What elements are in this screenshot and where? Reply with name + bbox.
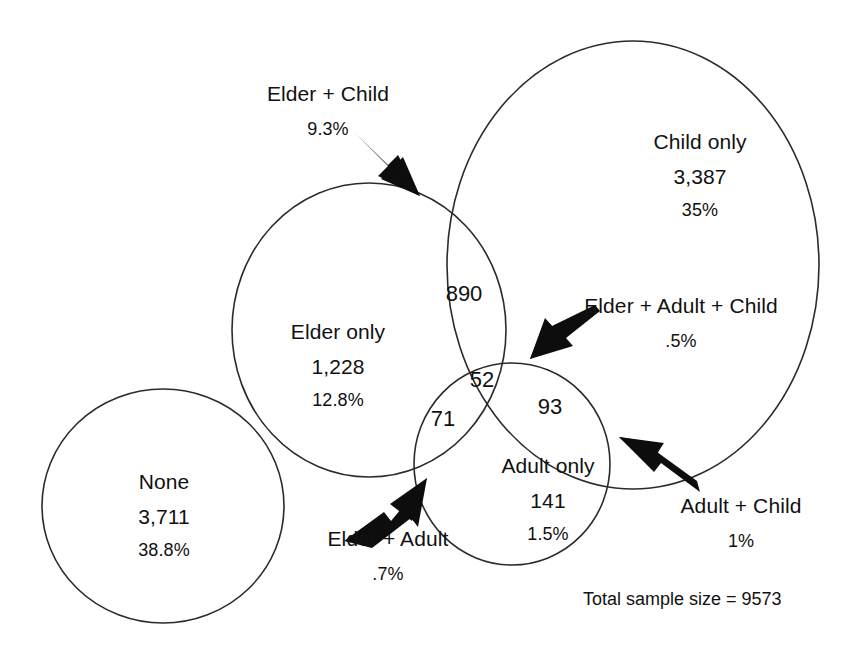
label-adult-child: Adult + Child 1% bbox=[636, 492, 846, 554]
label-elder-only-text: Elder only bbox=[248, 318, 428, 347]
arrow-adult-child bbox=[619, 437, 700, 492]
label-child-only: Child only 3,387 35% bbox=[600, 128, 800, 223]
label-child-only-percent: 35% bbox=[600, 198, 800, 223]
label-elder-adult: Elder + Adult .7% bbox=[283, 525, 493, 587]
label-elder-adult-child: Elder + Adult + Child .5% bbox=[540, 292, 822, 354]
label-adult-child-text: Adult + Child bbox=[636, 492, 846, 521]
label-elder-only: Elder only 1,228 12.8% bbox=[248, 318, 428, 413]
label-none-percent: 38.8% bbox=[84, 538, 244, 563]
arrow-elder-child bbox=[355, 133, 420, 196]
label-none-count: 3,711 bbox=[84, 503, 244, 532]
count-adult-child: 93 bbox=[527, 394, 573, 420]
label-elder-adult-child-percent: .5% bbox=[540, 329, 822, 354]
label-elder-adult-child-text: Elder + Adult + Child bbox=[540, 292, 822, 321]
venn-diagram-figure: Elder + Child 9.3% Child only 3,387 35% … bbox=[0, 0, 849, 657]
count-elder-adult: 71 bbox=[420, 406, 466, 432]
circle-child bbox=[447, 41, 819, 489]
label-elder-only-percent: 12.8% bbox=[248, 388, 428, 413]
label-child-only-text: Child only bbox=[600, 128, 800, 157]
label-elder-child-text: Elder + Child bbox=[198, 80, 458, 109]
label-elder-adult-text: Elder + Adult bbox=[283, 525, 493, 554]
label-child-only-count: 3,387 bbox=[600, 163, 800, 192]
label-none-text: None bbox=[84, 468, 244, 497]
label-elder-child-percent: 9.3% bbox=[198, 117, 458, 142]
total-sample-size: Total sample size = 9573 bbox=[583, 589, 782, 610]
label-elder-adult-percent: .7% bbox=[283, 562, 493, 587]
label-elder-child: Elder + Child 9.3% bbox=[198, 80, 458, 142]
count-elder-adult-child: 52 bbox=[459, 367, 505, 393]
label-adult-child-percent: 1% bbox=[636, 529, 846, 554]
label-adult-only-count: 141 bbox=[468, 487, 628, 516]
count-elder-child: 890 bbox=[433, 281, 495, 307]
label-none: None 3,711 38.8% bbox=[84, 468, 244, 563]
label-elder-only-count: 1,228 bbox=[248, 353, 428, 382]
label-adult-only-text: Adult only bbox=[468, 452, 628, 481]
